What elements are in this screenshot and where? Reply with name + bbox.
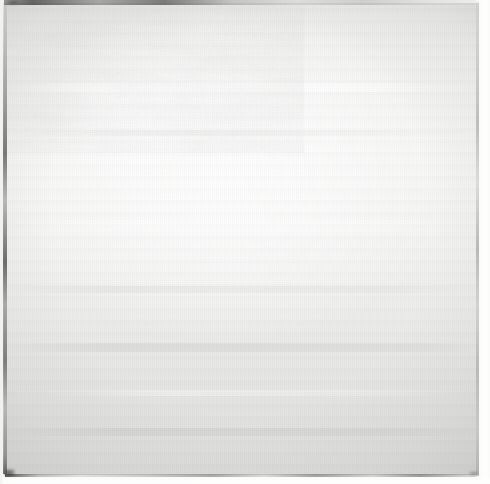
artwork-canvas xyxy=(0,0,490,484)
painted-field xyxy=(4,3,479,475)
edge-vignette xyxy=(4,3,479,475)
